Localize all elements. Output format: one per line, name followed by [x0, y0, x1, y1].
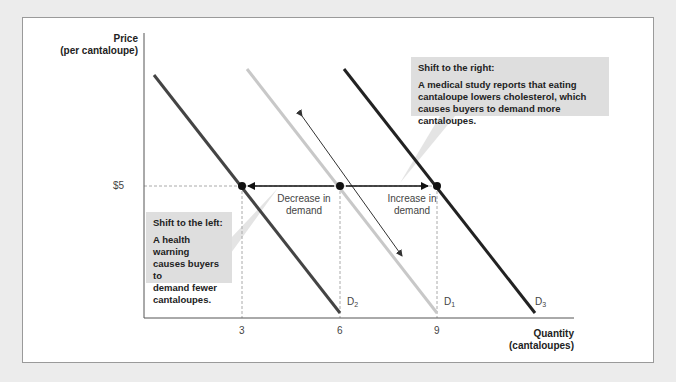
increase-label-line2: demand — [380, 205, 444, 217]
y-axis-title-line2: (per cantaloupe) — [40, 45, 138, 57]
label-d3: D3 — [535, 296, 546, 311]
x-axis-title: Quantity (cantaloupes) — [470, 328, 574, 352]
increase-label: Increase in demand — [380, 193, 444, 217]
point-d2 — [238, 182, 246, 190]
y-tick-5: $5 — [113, 180, 124, 192]
label-d1: D1 — [444, 296, 455, 311]
point-d3 — [433, 182, 441, 190]
callout-left-line3: demand fewer — [153, 282, 225, 294]
callout-left-title: Shift to the left: — [153, 217, 225, 229]
decrease-label: Decrease in demand — [272, 193, 336, 217]
callout-left-line4: cantaloupes. — [153, 294, 225, 306]
x-tick-9: 9 — [434, 325, 440, 337]
x-axis-title-line1: Quantity — [470, 328, 574, 340]
left-callout-pointer — [231, 188, 278, 253]
callout-right-line1: A medical study reports that eating — [418, 79, 602, 91]
callout-right-line3: causes buyers to demand more cantaloupes… — [418, 103, 602, 127]
label-d2: D2 — [347, 296, 358, 311]
callout-shift-left: Shift to the left: A health warning caus… — [146, 212, 232, 283]
decrease-label-line2: demand — [272, 205, 336, 217]
y-axis-title-line1: Price — [40, 33, 138, 45]
x-tick-3: 3 — [239, 325, 245, 337]
callout-shift-right: Shift to the right: A medical study repo… — [411, 57, 609, 116]
x-tick-6: 6 — [337, 325, 343, 337]
callout-right-line2: cantaloupe lowers cholesterol, which — [418, 91, 602, 103]
callout-right-title: Shift to the right: — [418, 62, 602, 74]
decrease-label-line1: Decrease in — [272, 193, 336, 205]
x-axis-title-line2: (cantaloupes) — [470, 340, 574, 352]
y-axis-title: Price (per cantaloupe) — [40, 33, 138, 57]
callout-left-line2: causes buyers to — [153, 258, 225, 282]
increase-label-line1: Increase in — [380, 193, 444, 205]
callout-left-line1: A health warning — [153, 234, 225, 258]
point-d1 — [336, 182, 344, 190]
